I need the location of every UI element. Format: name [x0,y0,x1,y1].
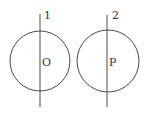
circle-p [77,30,139,92]
figure-1: 1 O [10,9,70,107]
figure-2: 2 P [77,9,139,107]
line-1-label: 1 [44,9,51,22]
geometry-diagram: 1 O 2 P [0,0,148,113]
line-2-label: 2 [112,9,119,22]
center-label-p: P [109,56,117,69]
center-label-o: O [42,56,51,69]
